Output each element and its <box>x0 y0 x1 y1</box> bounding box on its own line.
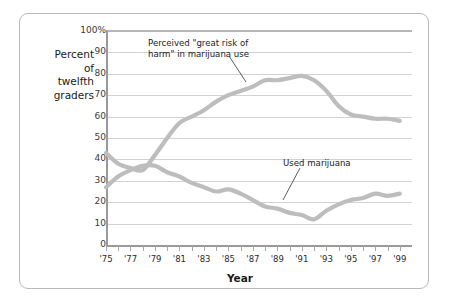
annotation-perceived-risk: Perceived "great risk of harm" in mariju… <box>148 38 249 60</box>
marijuana-trends-chart: Percent of twelfth graders 0102030405060… <box>0 0 451 303</box>
x-axis-title: Year <box>150 272 330 284</box>
annotation-perceived-risk-line-1: Perceived "great risk of <box>148 38 249 49</box>
series-line-perceived-risk <box>106 76 400 171</box>
annotation-used-marijuana: Used marijuana <box>283 158 351 169</box>
series-line-used-marijuana <box>106 165 400 219</box>
annotation-perceived-risk-line-2: harm" in marijuana use <box>148 49 249 60</box>
leader-line-used-marijuana <box>283 168 300 200</box>
